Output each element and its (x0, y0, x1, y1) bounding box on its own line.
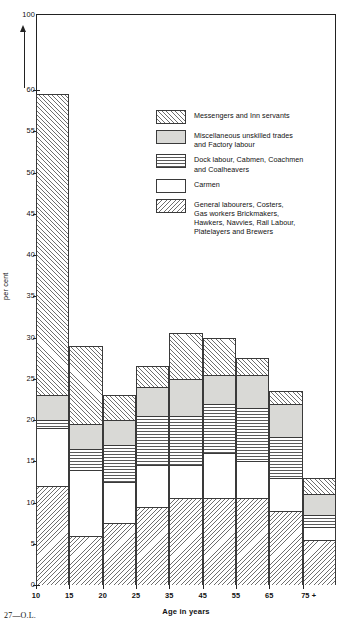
x-axis-tick-label: 75 + (301, 592, 316, 600)
bar-segment[interactable] (303, 527, 336, 539)
legend-item: Messengers and Inn servants (156, 110, 336, 124)
bar-segment[interactable] (203, 404, 236, 454)
bar-segment[interactable] (236, 375, 269, 408)
bar-segment[interactable] (69, 346, 102, 424)
bar-segment[interactable] (136, 507, 169, 585)
bar-segment[interactable] (303, 515, 336, 527)
bar-segment[interactable] (36, 420, 69, 428)
bar-segment[interactable] (169, 379, 202, 416)
bar-segment[interactable] (69, 424, 102, 449)
bar-segment[interactable] (236, 358, 269, 375)
legend-item: General labourers, Costers,Gas workers B… (156, 199, 336, 237)
bar-segment[interactable] (203, 338, 236, 375)
bar-segment[interactable] (103, 482, 136, 523)
legend-swatch-messengers (156, 110, 186, 124)
legend-swatch-dock (156, 154, 186, 168)
bar-segment[interactable] (303, 540, 336, 585)
legend-item: Miscellaneous unskilled tradesand Factor… (156, 130, 336, 149)
legend-label-line: Hawkers, Navvies, Rail Labour, (194, 218, 295, 227)
bar-segment[interactable] (136, 465, 169, 506)
x-axis-tick-mark (236, 585, 237, 589)
bar-segment[interactable] (236, 498, 269, 585)
y-axis-title: per cent (1, 272, 10, 300)
bar-segment[interactable] (36, 395, 69, 420)
bar-segment[interactable] (269, 511, 302, 585)
x-axis-tick-label: 55 (232, 592, 240, 600)
x-axis-tick-label: 25 (132, 592, 140, 600)
bar-segment[interactable] (69, 470, 102, 536)
legend-label-line: and Coalheavers (194, 165, 303, 174)
bar-segment[interactable] (236, 408, 269, 462)
legend-label-line: Miscellaneous unskilled trades (194, 131, 293, 140)
legend-label: Carmen (194, 179, 220, 189)
bar-column[interactable] (69, 90, 102, 585)
bar-segment[interactable] (303, 494, 336, 515)
x-axis-tick-mark (69, 585, 70, 589)
legend-label-line: and Factory labour (194, 140, 293, 149)
legend-label: General labourers, Costers,Gas workers B… (194, 199, 295, 237)
bar-segment[interactable] (269, 437, 302, 478)
x-axis-tick-mark (169, 585, 170, 589)
legend-label: Messengers and Inn servants (194, 110, 290, 120)
x-axis-tick-label: 65 (265, 592, 273, 600)
x-axis-tick-mark (269, 585, 270, 589)
legend-label-line: Dock labour, Cabmen, Coachmen (194, 155, 303, 164)
bar-segment[interactable] (203, 453, 236, 498)
bar-segment[interactable] (103, 395, 136, 420)
chart-legend: Messengers and Inn servantsMiscellaneous… (156, 110, 336, 242)
x-axis-tick-label: 45 (198, 592, 206, 600)
x-axis-tick-label: 35 (165, 592, 173, 600)
legend-label-line: Platelayers and Brewers (194, 227, 295, 236)
legend-swatch-miscellaneous (156, 130, 186, 144)
bar-segment[interactable] (169, 465, 202, 498)
legend-item: Dock labour, Cabmen, Coachmenand Coalhea… (156, 154, 336, 173)
x-axis-tick-mark (203, 585, 204, 589)
bar-segment[interactable] (69, 536, 102, 586)
bar-segment[interactable] (203, 375, 236, 404)
legend-label-line: General labourers, Costers, (194, 200, 295, 209)
bar-segment[interactable] (103, 523, 136, 585)
bar-segment[interactable] (36, 486, 69, 585)
x-axis-tick-label: 20 (98, 592, 106, 600)
bar-segment[interactable] (303, 478, 336, 495)
bar-segment[interactable] (269, 404, 302, 437)
legend-label-line: Messengers and Inn servants (194, 111, 290, 120)
y-axis-top-label: 100 (22, 11, 35, 18)
bar-segment[interactable] (136, 416, 169, 466)
bar-segment[interactable] (169, 416, 202, 466)
y-axis: per cent 051015202530354045505560100 (0, 0, 36, 628)
x-axis-title: Age in years (36, 607, 336, 616)
bar-segment[interactable] (103, 420, 136, 445)
x-axis-tick-mark (36, 585, 37, 589)
bar-column[interactable] (36, 90, 69, 585)
bar-segment[interactable] (169, 498, 202, 585)
bar-segment[interactable] (136, 387, 169, 416)
legend-swatch-general (156, 199, 186, 213)
bar-segment[interactable] (103, 445, 136, 482)
x-axis-tick-mark (136, 585, 137, 589)
legend-swatch-carmen (156, 179, 186, 193)
axis-break-arrow-icon (24, 30, 25, 88)
x-axis-tick-mark (303, 585, 304, 589)
bar-column[interactable] (103, 90, 136, 585)
footer-note: 27—O.L. (4, 611, 36, 620)
x-axis-tick-label: 10 (32, 592, 40, 600)
legend-label-line: Gas workers Brickmakers, (194, 209, 295, 218)
bar-segment[interactable] (36, 428, 69, 486)
x-axis-tick-label: 15 (65, 592, 73, 600)
bar-segment[interactable] (169, 333, 202, 378)
x-axis-tick-mark (103, 585, 104, 589)
legend-label: Dock labour, Cabmen, Coachmenand Coalhea… (194, 154, 303, 173)
bar-segment[interactable] (269, 391, 302, 403)
bar-segment[interactable] (69, 449, 102, 470)
legend-item: Carmen (156, 179, 336, 193)
bar-segment[interactable] (36, 94, 69, 395)
bar-segment[interactable] (269, 478, 302, 511)
bar-segment[interactable] (236, 461, 269, 498)
bar-segment[interactable] (136, 366, 169, 387)
legend-label-line: Carmen (194, 180, 220, 189)
bar-segment[interactable] (203, 498, 236, 585)
legend-label: Miscellaneous unskilled tradesand Factor… (194, 130, 293, 149)
